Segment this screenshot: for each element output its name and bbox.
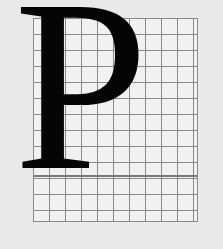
letter-glyph: P <box>14 0 148 208</box>
